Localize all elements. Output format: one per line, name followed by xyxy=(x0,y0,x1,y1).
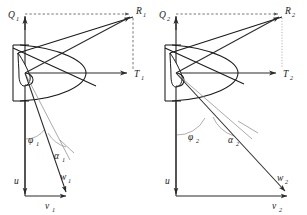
panel-1-label-q: Q xyxy=(8,10,15,20)
panel-1-label-v-sub: 1 xyxy=(52,206,55,213)
panel-2-label-q-sub: 2 xyxy=(167,15,170,22)
panel-2: Q 2 R 2 T 2 φ 2 α 2 u w 2 v 2 xyxy=(159,6,295,213)
velocity-triangle-diagram: Q 1 R 1 T 1 φ 1 α 1 u w 1 v 1 xyxy=(0,0,307,215)
panel-2-label-t-sub: 2 xyxy=(290,74,293,81)
panel-2-label-phi-sub: 2 xyxy=(196,137,199,144)
panel-1-label-r: R xyxy=(135,6,142,16)
panel-1-label-q-sub: 1 xyxy=(16,15,19,22)
panel-2-chord-line-upper xyxy=(170,17,282,53)
panel-2-label-w: w xyxy=(277,173,284,183)
panel-2-label-r: R xyxy=(284,6,291,16)
panel-1-label-t: T xyxy=(134,69,140,79)
panel-1-alpha-construction-line xyxy=(25,73,70,160)
panel-2-label-v-sub: 2 xyxy=(279,206,282,213)
panel-2-label-q: Q xyxy=(159,10,166,20)
panel-2-label-v: v xyxy=(272,201,277,211)
panel-1-label-u: u xyxy=(14,176,19,186)
panel-1-blade-profile xyxy=(18,53,30,86)
panel-1-label-phi: φ xyxy=(28,135,33,145)
panel-1-label-w: w xyxy=(60,172,67,182)
panel-1-alpha-tick xyxy=(60,140,74,153)
panel-2-alpha-tick xyxy=(238,121,258,133)
panel-1-label-r-sub: 1 xyxy=(143,11,146,18)
panel-1: Q 1 R 1 T 1 φ 1 α 1 u w 1 v 1 xyxy=(8,6,146,213)
panel-2-label-t: T xyxy=(283,69,289,79)
panel-1-label-v: v xyxy=(45,201,50,211)
figure-root: Q 1 R 1 T 1 φ 1 α 1 u w 1 v 1 xyxy=(0,0,307,215)
panel-2-label-alpha-sub: 2 xyxy=(236,140,239,147)
panel-1-label-alpha: α xyxy=(54,151,60,161)
panel-1-label-w-sub: 1 xyxy=(68,177,71,184)
panel-2-label-u: u xyxy=(165,176,170,186)
panel-2-label-r-sub: 2 xyxy=(292,11,295,18)
panel-2-label-alpha: α xyxy=(228,135,234,145)
panel-2-resultant-vector xyxy=(176,17,279,73)
panel-1-chord-line-upper xyxy=(18,17,133,53)
panel-1-resultant-vector xyxy=(25,17,130,73)
panel-2-label-w-sub: 2 xyxy=(285,178,288,185)
panel-1-label-phi-sub: 1 xyxy=(36,140,39,147)
panel-2-label-phi: φ xyxy=(188,132,193,142)
panel-1-label-t-sub: 1 xyxy=(141,74,144,81)
panel-1-label-alpha-sub: 1 xyxy=(62,156,65,163)
